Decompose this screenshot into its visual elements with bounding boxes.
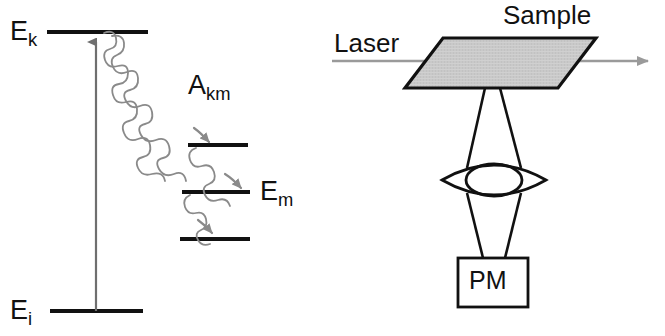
label-energy-level-m: Em <box>260 178 293 205</box>
ray-left-lower <box>467 193 483 258</box>
collection-optics-rays <box>467 88 521 258</box>
ray-right-lower <box>505 193 521 258</box>
sample-plate <box>405 38 596 88</box>
emission-squiggle-2 <box>112 36 186 181</box>
lens-aperture-ellipse <box>466 164 522 196</box>
ray-right-upper <box>500 88 521 168</box>
collection-lens <box>442 164 546 196</box>
emission-arrow-1 <box>194 128 209 142</box>
ray-left-upper <box>467 88 485 168</box>
emission-arrow-2 <box>225 174 241 188</box>
emission-squiggle-group <box>104 32 241 245</box>
lens-body <box>442 165 546 195</box>
label-laser: Laser <box>334 30 399 56</box>
label-sample: Sample <box>503 2 591 28</box>
label-pm-detector: PM <box>469 268 507 293</box>
figure-canvas <box>0 0 665 336</box>
label-energy-level-i: Ei <box>10 297 32 324</box>
figure-root: Ek Ei Em Akm Laser Sample PM <box>0 0 665 336</box>
emission-squiggle-3 <box>189 148 230 206</box>
label-energy-level-k: Ek <box>10 18 37 45</box>
label-transition-rate-akm: Akm <box>188 72 231 99</box>
